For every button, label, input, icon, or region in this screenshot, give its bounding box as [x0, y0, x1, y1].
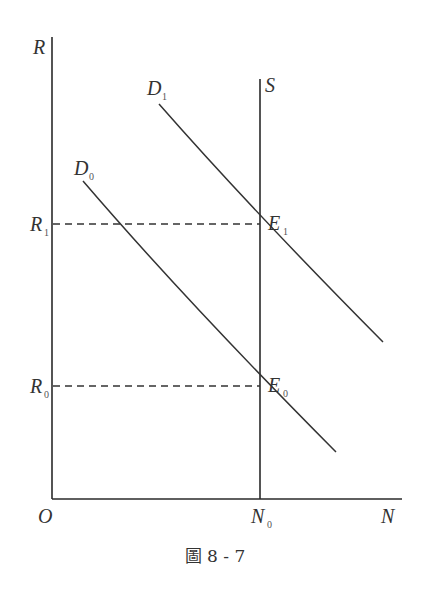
x-axis-label: N	[380, 505, 396, 527]
supply-demand-diagram: R N O R 1 R 0 N 0 S D 1 D 0 E 1 E 0 圖 8 …	[0, 0, 431, 590]
demand-curve-d0	[83, 181, 336, 452]
supply-label: S	[265, 74, 275, 96]
e0-label: E 0	[267, 374, 288, 399]
svg-text:D: D	[146, 77, 162, 99]
svg-text:R: R	[29, 375, 42, 397]
svg-text:0: 0	[283, 388, 288, 399]
figure-caption: 圖 8 - 7	[185, 546, 246, 566]
svg-text:E: E	[267, 212, 280, 234]
y-axis-label: R	[32, 36, 45, 58]
svg-text:1: 1	[283, 226, 288, 237]
svg-text:0: 0	[44, 389, 49, 400]
e1-label: E 1	[267, 212, 288, 237]
svg-text:D: D	[73, 157, 89, 179]
svg-text:0: 0	[89, 171, 94, 182]
r1-label: R 1	[29, 213, 49, 238]
origin-label: O	[38, 505, 52, 527]
svg-text:N: N	[250, 505, 266, 527]
svg-text:0: 0	[267, 519, 272, 530]
d1-label: D 1	[146, 77, 167, 102]
r0-label: R 0	[29, 375, 49, 400]
svg-text:E: E	[267, 374, 280, 396]
svg-text:R: R	[29, 213, 42, 235]
svg-text:1: 1	[44, 227, 49, 238]
svg-text:1: 1	[162, 91, 167, 102]
d0-label: D 0	[73, 157, 94, 182]
n0-label: N 0	[250, 505, 272, 530]
